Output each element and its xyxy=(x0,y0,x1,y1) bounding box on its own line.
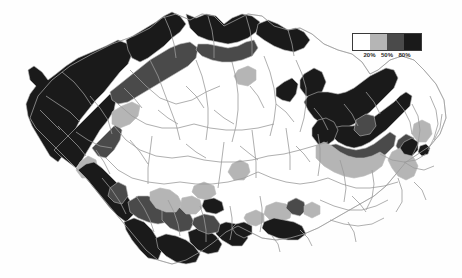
legend-swatch-20-50 xyxy=(370,34,387,50)
choropleth-figure: 20% 50% 80% xyxy=(0,0,462,278)
map-legend: 20% 50% 80% xyxy=(352,33,422,64)
legend-swatch-50-80 xyxy=(387,34,404,50)
legend-tick-labels: 20% 50% 80% xyxy=(352,52,422,64)
legend-tick-80: 80% xyxy=(398,52,410,58)
legend-tick-50: 50% xyxy=(381,52,393,58)
legend-swatch-strip xyxy=(352,33,422,51)
legend-swatch-0-20 xyxy=(353,34,370,50)
legend-swatch-80-100 xyxy=(404,34,421,50)
legend-tick-20: 20% xyxy=(363,52,375,58)
